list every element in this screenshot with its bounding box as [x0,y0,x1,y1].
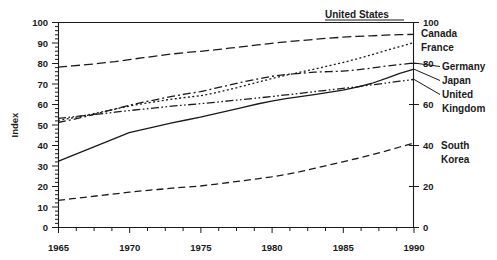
series-label-south: South [441,140,469,151]
leader-line-japan [414,69,440,80]
x-tick-1985: 1985 [333,242,355,253]
x-tick-1980: 1980 [262,242,283,253]
series-label-united: United [442,89,473,100]
left-tick-90: 90 [37,38,48,49]
series-label-japan: Japan [442,75,471,86]
leader-line-united-kingdom [414,79,440,94]
right-tick-100: 100 [423,17,439,28]
series-line-united-kingdom [58,79,414,118]
left-axis-tick-labels: 100 90 80 70 60 50 40 30 20 10 0 [32,17,48,233]
x-tick-1990: 1990 [403,242,424,253]
left-tick-70: 70 [37,79,48,90]
right-tick-60: 60 [423,99,434,110]
left-tick-50: 50 [37,120,48,131]
series-label-kingdom: Kingdom [442,103,485,114]
series-label-france: France [421,42,454,53]
y-axis-title: Index [9,112,20,138]
series-line-germany [58,63,414,123]
series-line-canada [58,34,414,67]
series-label-united-states: United States [325,9,389,20]
left-tick-60: 60 [37,99,48,110]
series-label-germany: Germany [442,61,486,72]
left-tick-40: 40 [37,140,48,151]
left-tick-80: 80 [37,58,48,69]
left-tick-0: 0 [43,222,48,233]
series-label-canada: Canada [421,28,458,39]
left-tick-30: 30 [37,161,48,172]
chart-figure: 100 90 80 70 60 50 40 30 20 10 0 Index 1… [0,0,497,260]
left-tick-10: 10 [37,202,48,213]
left-axis-ticks [52,23,58,228]
right-tick-80: 80 [423,58,434,69]
line-chart-svg: 100 90 80 70 60 50 40 30 20 10 0 Index 1… [0,0,497,260]
x-tick-1975: 1975 [190,242,212,253]
right-tick-0: 0 [423,222,428,233]
series-label-korea: Korea [441,154,470,165]
x-tick-1965: 1965 [48,242,70,253]
x-tick-1970: 1970 [119,242,140,253]
left-tick-20: 20 [37,181,48,192]
plot-frame [58,22,414,228]
series-line-south-korea [58,143,414,201]
right-tick-40: 40 [423,140,434,151]
right-tick-20: 20 [423,181,434,192]
bottom-axis-tick-labels: 1965 1970 1975 1980 1985 1990 [48,242,425,253]
left-tick-100: 100 [32,17,48,28]
